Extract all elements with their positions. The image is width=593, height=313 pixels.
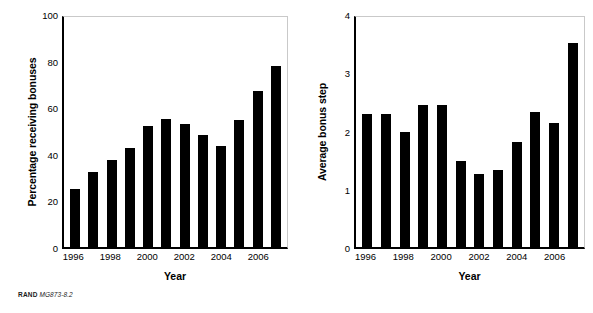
x-tick-label: 2000 — [431, 252, 452, 262]
bar — [437, 105, 447, 247]
x-tick-label: 2002 — [468, 252, 489, 262]
bar-series — [356, 17, 584, 247]
bar — [456, 161, 466, 247]
bar — [474, 174, 484, 247]
y-tick-label: 80 — [47, 58, 58, 68]
figure-container: Percentage receiving bonuses 02040608010… — [0, 0, 593, 313]
x-tick-label: 1996 — [63, 252, 84, 262]
plot-area — [354, 16, 585, 249]
x-tick-label: 1998 — [393, 252, 414, 262]
bar — [198, 135, 208, 247]
bar — [362, 114, 372, 247]
bar — [216, 146, 226, 247]
x-tick-label: 1998 — [100, 252, 121, 262]
y-axis-ticks: 01234 — [328, 16, 354, 249]
bar — [512, 142, 522, 247]
bar — [161, 119, 171, 247]
bar — [107, 160, 117, 247]
x-tick-label: 2006 — [248, 252, 269, 262]
bar — [530, 112, 540, 247]
bar — [253, 91, 263, 247]
bar — [88, 172, 98, 247]
y-tick-label: 40 — [47, 151, 58, 161]
bar — [400, 132, 410, 247]
x-tick-label: 2002 — [174, 252, 195, 262]
y-tick-label: 4 — [345, 11, 350, 21]
y-tick-label: 0 — [345, 244, 350, 254]
x-tick-label: 2004 — [506, 252, 527, 262]
bar — [493, 170, 503, 247]
y-tick-label: 20 — [47, 198, 58, 208]
bar — [70, 189, 80, 247]
y-tick-label: 1 — [345, 186, 350, 196]
bar — [271, 66, 281, 247]
x-tick-label: 2000 — [137, 252, 158, 262]
y-tick-label: 100 — [42, 11, 58, 21]
x-tick-label: 2006 — [544, 252, 565, 262]
bar — [180, 124, 190, 247]
x-axis-ticks: 199619982000200220042006 — [62, 252, 288, 266]
x-axis-title: Year — [62, 270, 288, 282]
plot-area — [62, 16, 288, 249]
y-tick-label: 0 — [53, 244, 58, 254]
y-axis-ticks: 020406080100 — [36, 16, 62, 249]
bar — [143, 126, 153, 247]
y-tick-label: 2 — [345, 128, 350, 138]
source-note: RAND MG873-8.2 — [18, 292, 73, 299]
bar-series — [64, 17, 287, 247]
x-axis-title: Year — [354, 270, 585, 282]
source-organization: RAND — [18, 291, 38, 298]
x-axis-ticks: 199619982000200220042006 — [354, 252, 585, 266]
bar — [381, 114, 391, 247]
y-tick-label: 3 — [345, 70, 350, 80]
y-tick-label: 60 — [47, 104, 58, 114]
bar — [125, 148, 135, 247]
bar — [418, 105, 428, 247]
bar — [568, 43, 578, 247]
chart-panel-percentage-receiving-bonuses: Percentage receiving bonuses 02040608010… — [0, 0, 296, 290]
bar — [549, 123, 559, 247]
x-tick-label: 1996 — [355, 252, 376, 262]
source-figure-code: MG873-8.2 — [39, 291, 72, 298]
chart-panel-average-bonus-step: Average bonus step 01234 199619982000200… — [297, 0, 593, 290]
x-tick-label: 2004 — [211, 252, 232, 262]
bar — [234, 120, 244, 247]
